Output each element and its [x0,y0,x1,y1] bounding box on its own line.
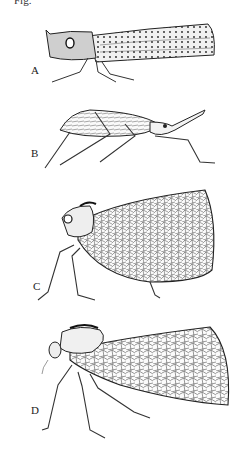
insect-d-illustration [0,0,240,455]
figure-plate: Fig. A [0,0,240,455]
panel-label-d: D [31,404,39,416]
